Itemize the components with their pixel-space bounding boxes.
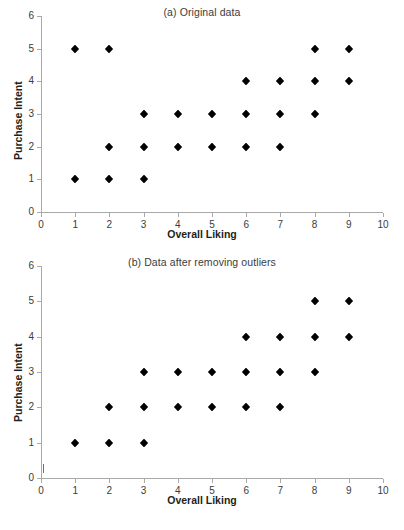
data-point [276,403,284,411]
y-tick-label: 1 [18,173,34,184]
data-point [208,142,216,150]
x-tick [212,479,213,483]
data-point [242,142,250,150]
x-tick [349,213,350,217]
x-tick [246,479,247,483]
x-tick [41,213,42,217]
data-point [139,110,147,118]
y-tick [37,407,41,408]
plot-area-a: 0123456789100123456 [41,16,383,212]
data-point [242,368,250,376]
data-point [242,332,250,340]
x-tick [41,479,42,483]
x-axis-title-a: Overall Liking [0,228,404,240]
x-tick [75,479,76,483]
x-tick [315,479,316,483]
x-tick [178,479,179,483]
data-point [310,368,318,376]
x-tick [109,213,110,217]
y-tick-label: 5 [18,43,34,54]
data-point [276,332,284,340]
y-tick [37,179,41,180]
y-tick [37,16,41,17]
y-tick [37,81,41,82]
y-tick [37,478,41,479]
y-tick [37,49,41,50]
data-point [276,77,284,85]
y-axis-title-b: Purchase Intent [12,343,24,422]
y-axis-title-a: Purchase Intent [12,81,24,160]
data-point [105,175,113,183]
figure-two-scatter-panels: (a) Original data 0123456789100123456 Ov… [0,0,404,530]
data-point [105,44,113,52]
data-point [139,175,147,183]
data-point [310,77,318,85]
data-point [310,297,318,305]
y-tick [37,337,41,338]
data-point [276,110,284,118]
x-tick [246,213,247,217]
panel-original-data: (a) Original data 0123456789100123456 Ov… [0,0,404,250]
y-tick-label: 6 [18,10,34,21]
panel-outliers-removed: (b) Data after removing outliers 0123456… [0,250,404,530]
data-point [310,44,318,52]
x-tick [212,213,213,217]
data-point [174,110,182,118]
data-point [105,403,113,411]
data-point [139,368,147,376]
data-point [139,142,147,150]
y-tick-label: 5 [18,295,34,306]
data-point [242,77,250,85]
x-tick [144,479,145,483]
x-tick [178,213,179,217]
data-point [139,403,147,411]
y-tick-label: 0 [18,206,34,217]
y-tick-label: 1 [18,437,34,448]
x-tick [315,213,316,217]
data-point [105,142,113,150]
data-point [174,142,182,150]
y-axis-line [41,16,42,213]
data-point [71,44,79,52]
y-tick-label: 0 [18,472,34,483]
data-point [310,110,318,118]
data-point [345,77,353,85]
x-axis-title-b: Overall Liking [0,494,404,506]
data-point [276,142,284,150]
y-tick [37,301,41,302]
x-tick [383,479,384,483]
y-axis-line [41,266,42,479]
data-point [208,110,216,118]
data-point [345,297,353,305]
x-tick [383,213,384,217]
data-point [345,332,353,340]
data-point [276,368,284,376]
data-point [139,438,147,446]
x-tick [75,213,76,217]
y-tick [37,147,41,148]
plot-area-b: 0123456789100123456 [41,266,383,478]
x-tick [280,213,281,217]
data-point [105,438,113,446]
data-point [174,403,182,411]
y-tick [37,372,41,373]
data-point [242,403,250,411]
data-point [71,438,79,446]
x-tick [109,479,110,483]
y-tick-label: 6 [18,260,34,271]
data-point [310,332,318,340]
x-tick [144,213,145,217]
data-point [345,44,353,52]
x-tick [349,479,350,483]
x-tick [280,479,281,483]
data-point [174,368,182,376]
data-point [71,175,79,183]
y-tick [37,114,41,115]
y-tick [37,266,41,267]
data-point [208,368,216,376]
y-tick [37,443,41,444]
data-point [208,403,216,411]
stray-tick-artifact [43,464,44,473]
data-point [242,110,250,118]
y-tick-label: 4 [18,331,34,342]
